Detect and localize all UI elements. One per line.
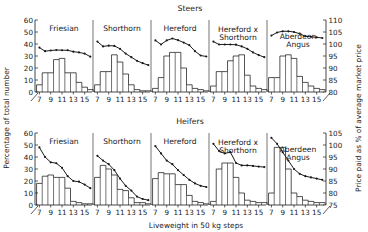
right-axis-tick-label: 100 [329, 141, 343, 150]
x-axis-tick-label: 13 [69, 95, 78, 104]
price-line [39, 48, 90, 57]
x-axis-tick-label: 11 [231, 95, 240, 104]
left-axis-tick-label: 20 [24, 64, 34, 73]
price-line-marker [276, 143, 278, 145]
x-axis-tick-label: 9 [106, 208, 111, 217]
price-line-marker [102, 45, 104, 47]
price-line-marker [258, 54, 260, 56]
price-line-marker [125, 185, 127, 187]
price-line-marker [50, 161, 52, 163]
right-axis-tick-label: 95 [329, 153, 338, 162]
left-axis-tick-label: 50 [24, 141, 34, 150]
left-axis-tick-label: 60 [24, 129, 34, 138]
price-line-marker [241, 164, 243, 166]
price-line-marker [171, 37, 173, 39]
price-line-marker [160, 152, 162, 154]
price-line-marker [177, 39, 179, 41]
price-line-marker [160, 43, 162, 45]
x-axis-tick-label: 9 [48, 208, 53, 217]
x-axis-tick-label: 9 [280, 95, 285, 104]
price-line-marker [246, 48, 248, 50]
price-line-marker [310, 176, 312, 178]
price-line-marker [89, 56, 91, 58]
price-line-marker [38, 146, 40, 148]
right-axis-tick-label: 80 [329, 189, 339, 198]
x-axis-tick-label: 7 [153, 208, 158, 217]
price-line-marker [321, 37, 323, 39]
x-axis-tick-label: 15 [254, 208, 263, 217]
x-axis-tick-label: 13 [243, 95, 252, 104]
price-line-marker [108, 45, 110, 47]
price-line-marker [235, 44, 237, 46]
price-line [97, 42, 148, 66]
price-line-marker [108, 163, 110, 165]
price-line-marker [84, 184, 86, 186]
price-line-marker [147, 199, 149, 201]
price-line-marker [194, 50, 196, 52]
price-line-marker [113, 45, 115, 47]
panel-title: Shorthorn [219, 33, 257, 42]
x-axis-tick-label: 11 [115, 95, 124, 104]
price-line-marker [316, 178, 318, 180]
price-line-marker [205, 55, 207, 57]
panel-heifers-0 [36, 146, 93, 207]
price-line-marker [224, 43, 226, 45]
price-line-marker [270, 35, 272, 37]
price-line-marker [200, 185, 202, 187]
x-axis-tick-label: 13 [127, 95, 136, 104]
x-axis-tick-label: 9 [106, 95, 111, 104]
price-line-marker [61, 167, 63, 169]
x-axis-tick-label: 9 [164, 208, 169, 217]
left-axis-tick-label: 30 [24, 52, 34, 61]
x-axis-tick-label: 11 [289, 208, 298, 217]
left-axis-tick-label: 0 [28, 88, 33, 97]
price-line-marker [113, 169, 115, 171]
row-title-steers: Steers [178, 4, 203, 13]
left-axis-tick-label: 0 [28, 201, 33, 210]
panel-title: Hereford [163, 24, 196, 33]
price-line-marker [229, 43, 231, 45]
price-line-marker [154, 39, 156, 41]
left-axis-tick-label: 20 [24, 177, 34, 186]
x-axis-tick-label: 11 [57, 208, 66, 217]
x-axis-tick-label: 11 [231, 208, 240, 217]
x-axis-tick-label: 7 [95, 208, 100, 217]
price-line-marker [61, 49, 63, 51]
price-line-marker [166, 39, 168, 41]
price-line-marker [183, 174, 185, 176]
price-line-marker [235, 162, 237, 164]
price-line-marker [188, 179, 190, 181]
price-line-marker [200, 54, 202, 56]
x-axis-tick-label: 7 [153, 95, 158, 104]
price-line-marker [241, 45, 243, 47]
x-axis-tick-label: 13 [185, 208, 194, 217]
price-line-marker [171, 163, 173, 165]
left-axis-tick-label: 60 [24, 16, 34, 25]
price-line-marker [293, 168, 295, 170]
price-line-marker [147, 64, 149, 66]
x-axis-tick-label: 11 [57, 95, 66, 104]
panel-steers-0 [36, 47, 93, 95]
right-axis-tick-label: 110 [329, 16, 343, 25]
left-axis-tick-label: 30 [24, 165, 34, 174]
x-axis-tick-label: 15 [138, 95, 147, 104]
right-axis-tick-label: 100 [329, 40, 343, 49]
panel-title: Shorthorn [103, 137, 141, 146]
price-line-marker [78, 51, 80, 53]
x-axis-tick-label: 15 [196, 95, 205, 104]
price-line-marker [44, 156, 46, 158]
x-axis-tick-label: 9 [222, 95, 227, 104]
price-line [155, 146, 206, 187]
price-line-marker [125, 53, 127, 55]
price-line-marker [205, 186, 207, 188]
left-axis-tick-label: 10 [24, 76, 34, 85]
price-line-marker [142, 62, 144, 64]
price-line-marker [67, 49, 69, 51]
price-line-marker [212, 41, 214, 43]
price-line-marker [246, 164, 248, 166]
x-axis-tick-label: 15 [254, 95, 263, 104]
price-line-marker [263, 56, 265, 58]
price-line-marker [84, 53, 86, 55]
x-axis-tick-label: 13 [185, 95, 194, 104]
right-axis-tick-label: 95 [329, 52, 338, 61]
